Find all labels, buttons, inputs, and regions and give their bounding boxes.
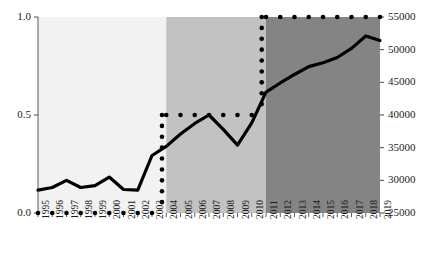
- x-axis-tick-label: 1998: [85, 200, 95, 219]
- x-axis-tick-label: 2013: [299, 200, 309, 219]
- left-axis-tick-label: 0.0: [17, 207, 31, 218]
- x-axis-tick-label: 2019: [384, 200, 394, 219]
- right-axis-tick-label: 55000: [388, 11, 416, 22]
- right-axis-tick-label: 30000: [388, 174, 416, 185]
- x-axis-tick-label: 1995: [42, 200, 52, 219]
- x-axis-tick-label: 2012: [284, 200, 294, 219]
- x-axis-tick-label: 2007: [213, 200, 223, 219]
- x-axis-tick-label: 2017: [356, 200, 366, 219]
- x-axis-tick-label: 1999: [99, 200, 109, 219]
- x-axis-tick-label: 2002: [142, 200, 152, 219]
- right-axis-tick-label: 50000: [388, 44, 416, 55]
- x-axis-tick-label: 2015: [327, 200, 337, 219]
- x-axis-tick-label: 2005: [185, 200, 195, 219]
- x-axis-tick-label: 1996: [56, 200, 66, 219]
- x-axis-tick-label: 2014: [313, 200, 323, 219]
- left-axis-tick-label: 1.0: [17, 11, 31, 22]
- right-axis-tick-label: 40000: [388, 109, 416, 120]
- x-axis-tick-label: 2004: [170, 200, 180, 219]
- chart-canvas: [0, 0, 438, 267]
- x-axis-tick-label: 2016: [341, 200, 351, 219]
- x-axis-tick-label: 2000: [113, 200, 123, 219]
- x-axis-tick-label: 2018: [370, 200, 380, 219]
- x-axis-tick-label: 2003: [156, 200, 166, 219]
- x-axis-tick-label: 2006: [199, 200, 209, 219]
- band-late: [266, 17, 380, 213]
- right-axis-tick-label: 35000: [388, 142, 416, 153]
- left-axis-tick-label: 0.5: [17, 109, 31, 120]
- x-axis-tick-label: 1997: [71, 200, 81, 219]
- x-axis-tick-label: 2008: [227, 200, 237, 219]
- x-axis-tick-label: 2001: [128, 200, 138, 219]
- x-axis-tick-label: 2011: [270, 200, 280, 219]
- chart-container: 0.00.51.02500030000350004000045000500005…: [0, 0, 438, 267]
- right-axis-tick-label: 45000: [388, 76, 416, 87]
- x-axis-tick-label: 2009: [242, 200, 252, 219]
- x-axis-tick-label: 2010: [256, 200, 266, 219]
